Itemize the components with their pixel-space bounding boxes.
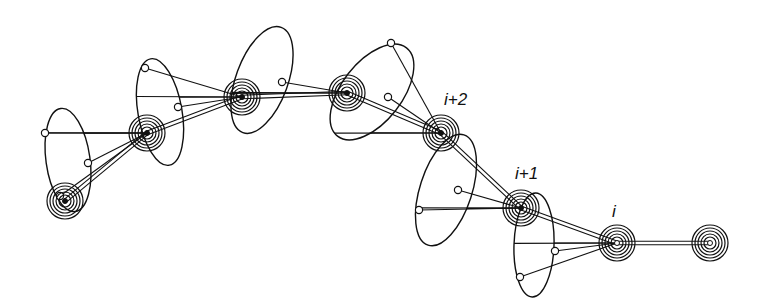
- position-marker: [174, 103, 181, 110]
- bond-line: [64, 132, 146, 200]
- position-marker: [41, 129, 48, 136]
- node-center: [345, 91, 350, 96]
- position-marker: [278, 78, 285, 85]
- node-center: [145, 131, 150, 136]
- node-center: [240, 95, 245, 100]
- cone-chain-diagram: [0, 0, 764, 307]
- position-marker: [454, 186, 461, 193]
- position-marker: [387, 39, 394, 46]
- bond-line: [66, 134, 148, 202]
- position-marker: [516, 273, 523, 280]
- bond-line: [440, 134, 520, 209]
- cone-base-ellipse: [218, 18, 305, 141]
- cone-ray: [388, 97, 441, 133]
- position-marker: [415, 206, 422, 213]
- position-marker: [551, 247, 558, 254]
- node-center: [519, 206, 524, 211]
- position-marker: [384, 93, 391, 100]
- cone-base-ellipse: [403, 127, 488, 253]
- node-center: [439, 131, 444, 136]
- position-marker: [141, 64, 148, 71]
- node-center: [615, 241, 620, 246]
- cone-ray: [60, 133, 147, 196]
- node-center: [708, 241, 713, 246]
- bond-line: [442, 132, 522, 207]
- bond-line: [242, 95, 347, 99]
- label-i-plus-2: i+2: [444, 90, 467, 110]
- node-center: [63, 199, 68, 204]
- label-i-plus-1: i+1: [515, 164, 538, 184]
- position-marker: [84, 159, 91, 166]
- label-i: i: [612, 202, 616, 222]
